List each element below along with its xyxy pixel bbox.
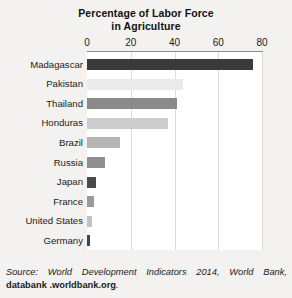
- bar-thailand: [87, 98, 177, 109]
- source-link-text: databank .worldbank.org: [6, 280, 116, 290]
- x-tick-label-80: 80: [247, 37, 277, 48]
- bar-germany: [87, 235, 90, 246]
- category-label-united-states: United States: [0, 215, 83, 226]
- bar-row: France: [0, 193, 292, 213]
- chart-figure: Percentage of Labor Force in Agriculture…: [0, 0, 292, 298]
- bar-row: Japan: [0, 173, 292, 193]
- bar-row: Madagascar: [0, 56, 292, 76]
- x-tick-label-60: 60: [203, 37, 233, 48]
- category-label-madagascar: Madagascar: [0, 59, 83, 70]
- source-suffix: .: [116, 280, 119, 290]
- source-prefix: Source: World Development Indicators 201…: [6, 267, 287, 277]
- category-label-brazil: Brazil: [0, 137, 83, 148]
- category-label-germany: Germany: [0, 235, 83, 246]
- bar-madagascar: [87, 59, 253, 70]
- bar-row: Thailand: [0, 95, 292, 115]
- bar-pakistan: [87, 79, 183, 90]
- bar-honduras: [87, 118, 168, 129]
- category-label-honduras: Honduras: [0, 117, 83, 128]
- x-tick-label-40: 40: [160, 37, 190, 48]
- category-label-japan: Japan: [0, 176, 83, 187]
- bar-row: Pakistan: [0, 75, 292, 95]
- chart-title-line-2: in Agriculture: [0, 20, 292, 33]
- bar-row: United States: [0, 212, 292, 232]
- bar-france: [87, 196, 94, 207]
- bar-row: Russia: [0, 154, 292, 174]
- bar-japan: [87, 177, 96, 188]
- bar-united-states: [87, 216, 92, 227]
- bar-russia: [87, 157, 105, 168]
- bar-brazil: [87, 137, 120, 148]
- bar-row: Honduras: [0, 114, 292, 134]
- x-tick-label-0: 0: [72, 37, 102, 48]
- category-label-thailand: Thailand: [0, 98, 83, 109]
- x-axis-line: [87, 51, 263, 52]
- category-label-pakistan: Pakistan: [0, 78, 83, 89]
- category-label-france: France: [0, 196, 83, 207]
- source-note: Source: World Development Indicators 201…: [6, 266, 287, 291]
- x-tick-label-20: 20: [116, 37, 146, 48]
- category-label-russia: Russia: [0, 157, 83, 168]
- bar-row: Germany: [0, 232, 292, 252]
- chart-title: Percentage of Labor Force in Agriculture: [0, 7, 292, 33]
- bar-row: Brazil: [0, 134, 292, 154]
- chart-title-line-1: Percentage of Labor Force: [0, 7, 292, 20]
